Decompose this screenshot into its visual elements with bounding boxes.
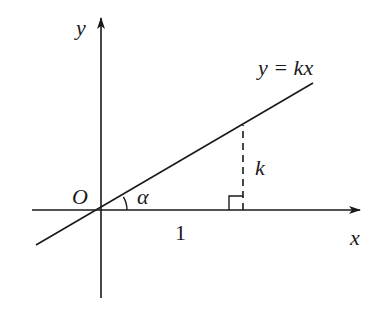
x-axis-label: x bbox=[349, 225, 360, 250]
slope-diagram: y x O y = kx α 1 k bbox=[0, 0, 380, 330]
rise-label: k bbox=[255, 155, 266, 180]
origin-label: O bbox=[72, 184, 88, 209]
angle-arc-icon bbox=[123, 197, 127, 210]
line-equation-label: y = kx bbox=[256, 55, 313, 80]
right-angle-marker bbox=[229, 196, 243, 210]
y-axis-label: y bbox=[74, 15, 86, 40]
run-label: 1 bbox=[175, 220, 186, 245]
angle-alpha-label: α bbox=[137, 184, 149, 209]
